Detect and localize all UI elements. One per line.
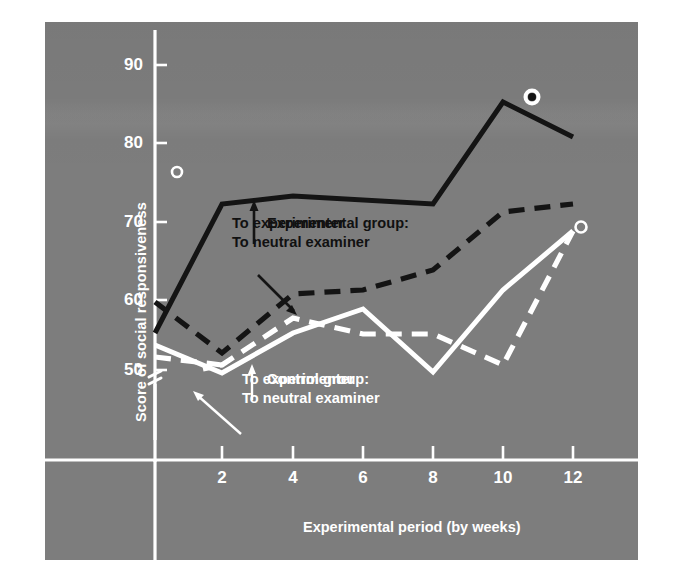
y-axis-title: Score of social responsiveness <box>133 202 149 422</box>
x-axis-ticks <box>222 446 573 460</box>
x-axis-title: Experimental period (by weeks) <box>303 519 521 535</box>
annotation-experimental-group: Experimental group: To experimenter To n… <box>267 214 405 252</box>
annotation-experimental-line3: To neutral examiner <box>232 233 370 252</box>
y-tick-label-80: 80 <box>103 133 143 153</box>
marker-open-circle-lower <box>576 222 587 233</box>
x-tick-label-12: 12 <box>558 468 588 488</box>
x-tick-label-8: 8 <box>418 468 448 488</box>
y-tick-label-90: 90 <box>103 55 143 75</box>
x-tick-label-4: 4 <box>278 468 308 488</box>
x-tick-label-6: 6 <box>348 468 378 488</box>
leader-experimental-to-neutral <box>258 275 297 315</box>
leader-control-to-neutral <box>193 391 241 434</box>
annotation-control-line2: To experimenter <box>242 370 380 389</box>
marker-open-circle-left <box>172 167 182 177</box>
marker-open-circle-upper-core <box>528 93 536 101</box>
annotation-control-group: Control group: To experimenter To neutra… <box>267 370 405 408</box>
annotation-control-line3: To neutral examiner <box>242 389 380 408</box>
x-tick-label-10: 10 <box>488 468 518 488</box>
x-tick-label-2: 2 <box>207 468 237 488</box>
annotation-experimental-line2: To experimenter <box>232 214 370 233</box>
chart-panel: 90 80 70 60 50 2 4 6 8 10 12 Score of so… <box>45 22 638 560</box>
